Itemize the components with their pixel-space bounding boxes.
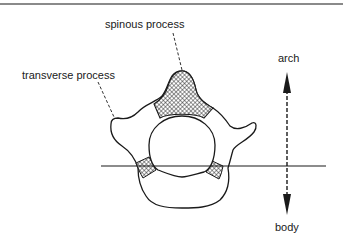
vertebra-diagram: spinous process transverse process arch … bbox=[0, 0, 343, 247]
vertebral-foramen bbox=[149, 116, 215, 177]
label-spinous-process: spinous process bbox=[105, 19, 185, 30]
vertebra-drawing bbox=[0, 0, 343, 247]
label-body: body bbox=[275, 222, 299, 233]
transverse-leader-line bbox=[98, 82, 114, 117]
label-transverse-process: transverse process bbox=[22, 70, 115, 81]
arrow-up-icon bbox=[283, 72, 291, 93]
label-arch: arch bbox=[278, 53, 299, 64]
spinous-leader-line bbox=[173, 33, 182, 70]
arrow-down-icon bbox=[283, 194, 291, 215]
